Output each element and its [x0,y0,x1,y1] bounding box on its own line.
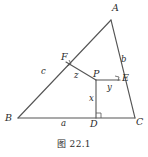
figure-container: A B C D E F P x y z a b c 图 22.1 [0,0,148,157]
vertex-label-A: A [112,3,119,13]
vertex-label-F: F [61,52,68,62]
segment-CA [111,20,135,118]
segment-PF [66,62,96,80]
vertex-label-P: P [93,69,99,79]
segment-label-y: y [107,83,112,92]
figure-caption: 图 22.1 [0,137,148,150]
segment-label-a: a [61,119,66,128]
vertex-label-C: C [136,117,143,127]
triangle-outline [18,20,135,118]
segment-label-c: c [41,67,46,76]
vertex-label-D: D [90,119,98,129]
segment-label-z: z [74,71,78,80]
vertex-label-B: B [5,113,12,123]
vertex-label-E: E [122,73,129,83]
geometry-diagram [0,0,148,138]
segment-label-b: b [121,55,126,64]
segment-label-x: x [89,94,94,103]
